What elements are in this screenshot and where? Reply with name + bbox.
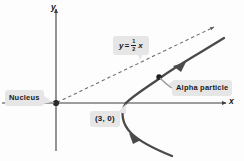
trajectory-arrow-incoming bbox=[173, 62, 186, 72]
vertex-point-label: (3, 0) bbox=[90, 111, 120, 127]
nucleus-label: Nucleus bbox=[5, 90, 44, 106]
equation-numerator: 1 bbox=[131, 39, 136, 46]
asymptote-equation-label: y = 1 2 x bbox=[113, 36, 149, 55]
equation-denominator: 2 bbox=[131, 46, 136, 52]
figure-root: y x Nucleus Alpha particle (3, 0) y = 1 … bbox=[0, 0, 244, 161]
y-axis-label: y bbox=[51, 2, 56, 12]
equation-variable: x bbox=[138, 42, 142, 50]
alpha-particle-label: Alpha particle bbox=[172, 80, 232, 96]
equation-lhs: y bbox=[119, 42, 123, 50]
x-axis-label: x bbox=[229, 96, 234, 106]
trajectory-lower-arm bbox=[123, 103, 172, 156]
equation-fraction: 1 2 bbox=[131, 39, 136, 52]
equation-equals: = bbox=[124, 42, 129, 50]
